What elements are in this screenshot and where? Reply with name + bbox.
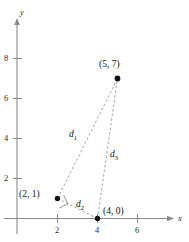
distance-label-d2: d2 [76,200,84,211]
y-axis-arrow-icon [14,18,20,25]
point-label-2-1: (2, 1) [19,190,40,200]
y-tick-label-2: 2 [4,174,8,183]
data-point-2-1 [55,196,60,201]
distance-label-d1-subscript: 1 [74,134,77,141]
data-point-5-7 [115,76,121,82]
plot-canvas [0,0,189,242]
x-tick-label-2: 2 [55,226,59,235]
y-tick-label-8: 8 [4,54,8,63]
y-tick-label-4: 4 [4,134,8,143]
y-tick-label-6: 6 [4,94,8,103]
distance-label-d3: d3 [110,150,118,161]
coordinate-plane-figure: y x 8 6 4 2 2 4 6 (2, 1) (4, 0) (5, 7) d… [0,0,189,242]
point-label-4-0: (4, 0) [103,207,124,217]
distance-label-d3-subscript: 3 [115,154,118,161]
point-label-5-7: (5, 7) [99,60,120,70]
x-tick-label-6: 6 [135,226,139,235]
x-axis-label: x [178,214,182,223]
distance-label-d1: d1 [69,130,77,141]
data-point-4-0 [95,216,100,221]
y-axis-label: y [20,8,24,17]
x-tick-label-4: 4 [95,226,99,235]
distance-label-d2-subscript: 2 [81,204,84,211]
x-axis-arrow-icon [167,216,174,222]
